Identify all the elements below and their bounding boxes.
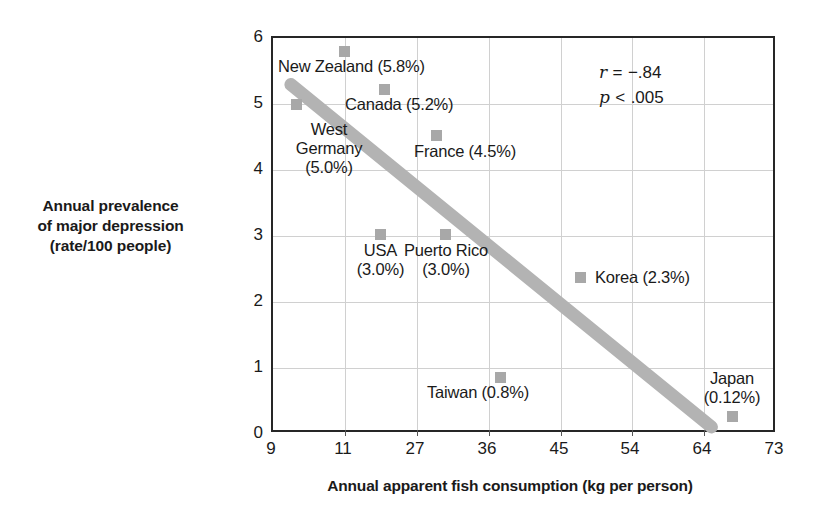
x-tickmark-11 (345, 430, 346, 436)
marker-west-germany[interactable] (291, 99, 302, 110)
correlation-line: r = −.84 (599, 60, 664, 85)
x-tickmark-45 (561, 430, 562, 436)
y-axis-title-line-3: (rate/100 people) (18, 236, 203, 256)
marker-japan[interactable] (727, 411, 738, 422)
pvalue-line: p < .005 (599, 85, 664, 110)
point-label-japan: Japan (0.12%) (682, 369, 782, 407)
correlation-operator: = (613, 63, 623, 82)
marker-france[interactable] (431, 130, 442, 141)
y-tick-0: 0 (237, 424, 263, 441)
x-tickmark-27 (417, 430, 418, 436)
marker-new-zealand[interactable] (339, 46, 350, 57)
x-tick-54: 54 (610, 440, 650, 458)
point-label-japan-line-2: (0.12%) (682, 388, 782, 407)
pvalue-symbol: p (599, 87, 610, 107)
y-axis-title-line-1: Annual prevalence (18, 196, 203, 216)
x-tick-9: 9 (251, 440, 291, 458)
x-axis-title: Annual apparent fish consumption (kg per… (225, 477, 795, 495)
y-axis-tick-labels: 6 5 4 3 2 1 0 (233, 36, 263, 432)
marker-usa[interactable] (375, 229, 386, 240)
point-label-france: France (4.5%) (414, 142, 516, 161)
correlation-symbol: r (599, 62, 607, 82)
y-axis-title: Annual prevalence of major depression (r… (18, 196, 203, 256)
y-tick-6: 6 (237, 28, 263, 45)
correlation-value: −.84 (628, 63, 662, 82)
x-tick-45: 45 (539, 440, 579, 458)
statistics-annotation: r = −.84 p < .005 (599, 60, 664, 110)
y-tick-3: 3 (237, 226, 263, 243)
x-axis-tick-labels: 9 11 27 36 45 54 64 73 (271, 440, 775, 464)
point-label-puerto-rico-line-1: Puerto Rico (391, 241, 501, 260)
point-label-puerto-rico: Puerto Rico (3.0%) (391, 241, 501, 279)
point-label-taiwan: Taiwan (0.8%) (427, 383, 529, 402)
y-tick-2: 2 (237, 292, 263, 309)
marker-korea[interactable] (575, 272, 586, 283)
y-tick-1: 1 (237, 358, 263, 375)
plot-area: New Zealand (5.8%) Canada (5.2%) West Ge… (271, 36, 775, 432)
marker-taiwan[interactable] (495, 372, 506, 383)
point-label-west-germany-line-1: West (273, 120, 385, 139)
x-tick-73: 73 (754, 440, 794, 458)
marker-puerto-rico[interactable] (440, 229, 451, 240)
scatter-plot-figure: Annual prevalence of major depression (r… (0, 0, 827, 512)
pvalue-operator: < (615, 88, 625, 107)
pvalue-value: .005 (631, 88, 664, 107)
point-label-canada: Canada (5.2%) (345, 95, 453, 114)
x-tickmark-64 (704, 430, 705, 436)
point-label-west-germany-line-2: Germany (273, 139, 385, 158)
point-label-puerto-rico-line-2: (3.0%) (391, 260, 501, 279)
x-tick-11: 11 (323, 440, 363, 458)
x-tickmark-54 (632, 430, 633, 436)
x-tick-36: 36 (467, 440, 507, 458)
x-tick-27: 27 (395, 440, 435, 458)
y-tick-4: 4 (237, 160, 263, 177)
point-label-new-zealand: New Zealand (5.8%) (278, 57, 425, 76)
point-label-japan-line-1: Japan (682, 369, 782, 388)
marker-canada[interactable] (379, 84, 390, 95)
y-tick-5: 5 (237, 94, 263, 111)
point-label-west-germany: West Germany (5.0%) (273, 120, 385, 177)
y-axis-title-line-2: of major depression (18, 216, 203, 236)
x-tickmark-36 (489, 430, 490, 436)
point-label-west-germany-line-3: (5.0%) (273, 158, 385, 177)
x-tick-64: 64 (682, 440, 722, 458)
point-label-korea: Korea (2.3%) (595, 268, 690, 287)
